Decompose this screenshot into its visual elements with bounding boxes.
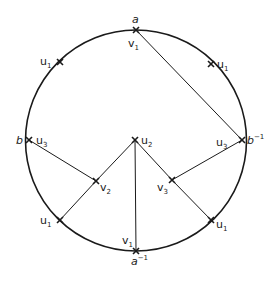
edge-a-to-b-inverse [136,30,242,140]
vertex-marker-b [26,137,32,143]
labels: a v1 u1 u1 b u3 u2 u3 b−1 v2 v3 u1 u1 v1… [16,13,264,268]
edge-v3-to-b-inverse [172,140,242,180]
label-a: a [132,13,139,26]
label-b: b [16,134,23,147]
edge-u2-to-a-inverse [135,140,136,251]
label-b-inverse: b−1 [247,133,264,147]
label-u3-right: u3 [216,136,227,151]
circle-graph-diagram: a v1 u1 u1 b u3 u2 u3 b−1 v2 v3 u1 u1 v1… [0,0,277,281]
vertex-marker-v3 [169,177,175,183]
label-u1-lower-left: u1 [40,214,51,229]
label-v2: v2 [100,181,111,196]
vertex-marker-b-inverse [239,137,245,143]
label-v1-bottom: v1 [122,234,133,249]
vertex-marker-u1-upper-right [208,61,214,67]
label-u1-lower-right: u1 [216,218,227,233]
edge-v3-to-u1-lower-right [172,180,211,220]
label-u3-left: u3 [36,134,47,149]
edge-v2-to-u1-lower-left [60,181,96,220]
label-v3: v3 [157,181,168,196]
label-v1-top: v1 [128,37,139,52]
vertex-marker-v2 [93,178,99,184]
label-a-inverse: a−1 [131,254,148,268]
vertex-marker-u1-lower-left [57,217,63,223]
label-u1-upper-left: u1 [40,55,51,70]
edge-v2-to-u2 [96,140,135,181]
label-u1-upper-right: u1 [217,58,228,73]
label-u2: u2 [141,134,152,149]
